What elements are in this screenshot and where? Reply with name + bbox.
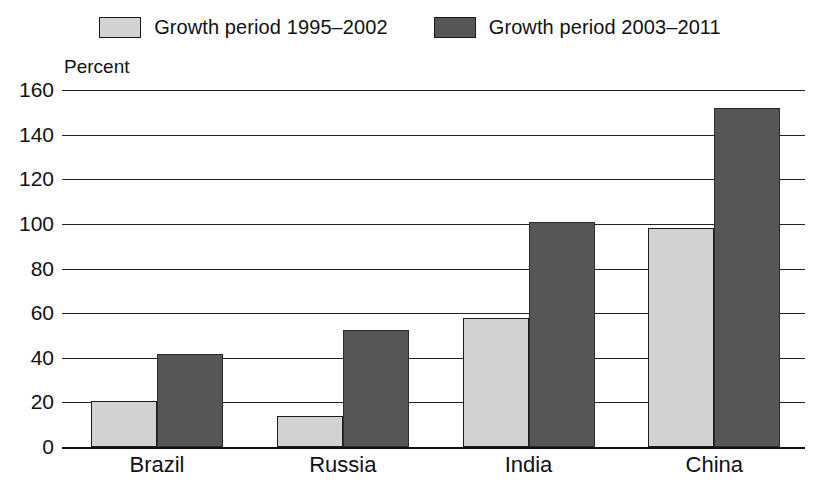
bar-india-series-1 [463, 318, 529, 447]
gridline [62, 224, 805, 225]
bar-china-series-2 [714, 108, 780, 447]
y-axis-tick-labels: 020406080100120140160 [0, 90, 54, 447]
y-tick-label: 120 [19, 167, 54, 191]
x-axis-line [62, 447, 805, 449]
gridline [62, 135, 805, 136]
gridline [62, 179, 805, 180]
bar-china-series-1 [648, 228, 714, 447]
y-tick-label: 40 [31, 346, 54, 370]
bar-india-series-2 [529, 222, 595, 447]
bar-brazil-series-1 [91, 401, 157, 447]
x-tick-label-india: India [505, 452, 553, 478]
y-tick-label: 60 [31, 301, 54, 325]
y-tick-label: 100 [19, 212, 54, 236]
bar-russia-series-2 [343, 330, 409, 447]
x-tick-label-brazil: Brazil [129, 452, 184, 478]
legend-label-growth-2003-2011: Growth period 2003–2011 [489, 16, 721, 39]
legend-swatch-light [99, 17, 141, 38]
chart-legend: Growth period 1995–2002 Growth period 20… [0, 10, 820, 44]
y-tick-label: 140 [19, 123, 54, 147]
x-axis-tick-labels: BrazilRussiaIndiaChina [62, 452, 805, 486]
bar-chart: Growth period 1995–2002 Growth period 20… [0, 0, 820, 492]
bar-russia-series-1 [277, 416, 343, 447]
legend-item-growth-2003-2011: Growth period 2003–2011 [434, 16, 721, 39]
legend-label-growth-1995-2002: Growth period 1995–2002 [154, 16, 388, 39]
x-tick-label-russia: Russia [309, 452, 376, 478]
y-tick-label: 0 [42, 435, 54, 459]
plot-area [62, 90, 805, 447]
y-tick-label: 160 [19, 78, 54, 102]
y-axis-title: Percent [64, 56, 129, 78]
gridline [62, 90, 805, 91]
x-tick-label-china: China [686, 452, 743, 478]
y-tick-label: 20 [31, 390, 54, 414]
legend-item-growth-1995-2002: Growth period 1995–2002 [99, 16, 388, 39]
y-tick-label: 80 [31, 257, 54, 281]
bar-brazil-series-2 [157, 354, 223, 447]
legend-swatch-dark [434, 17, 476, 38]
